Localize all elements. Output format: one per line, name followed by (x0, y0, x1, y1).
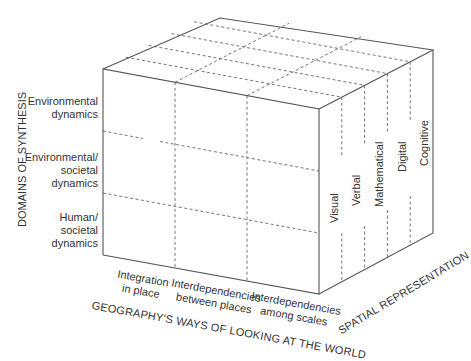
row2-line1: Environmental/ (10, 151, 98, 164)
depth-label-cognitive: Cognitive (418, 120, 430, 166)
row3-line3: dynamics (10, 237, 98, 250)
depth-label-visual: Visual (328, 193, 340, 223)
row-label-env-societal: Environmental/ societal dynamics (10, 151, 98, 190)
depth-label-digital: Digital (396, 141, 408, 172)
depth-label-verbal: Verbal (350, 175, 362, 206)
top-face-column-gridlines (175, 23, 361, 95)
row3-line2: societal (10, 224, 98, 237)
row2-line2: societal (10, 164, 98, 177)
front-face-gridlines (103, 82, 319, 281)
row1-line2: dynamics (10, 108, 98, 121)
depth-label-mathematical: Mathematical (373, 142, 385, 207)
row-label-environmental: Environmental dynamics (10, 95, 98, 121)
row3-line1: Human/ (10, 211, 98, 224)
row2-line3: dynamics (10, 177, 98, 190)
row1-line1: Environmental (10, 95, 98, 108)
top-face-depth-gridlines (126, 22, 410, 97)
row-label-human-societal: Human/ societal dynamics (10, 211, 98, 250)
